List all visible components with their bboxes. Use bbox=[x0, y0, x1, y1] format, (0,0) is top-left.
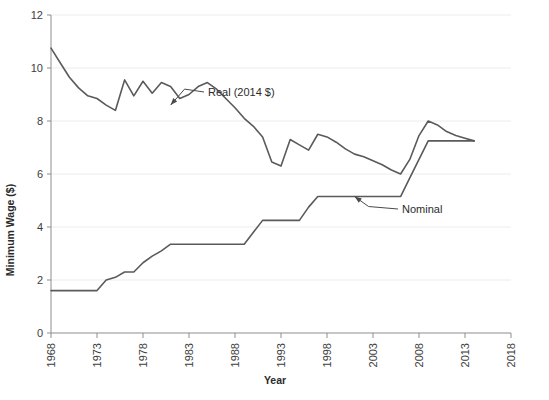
x-tick-label: 2018 bbox=[505, 343, 517, 367]
y-tick-label: 10 bbox=[31, 62, 43, 74]
x-tick-label: 1978 bbox=[137, 343, 149, 367]
annotation-leader bbox=[171, 89, 204, 105]
annotation-label: Real (2014 $) bbox=[208, 86, 275, 98]
x-tick-label: 2013 bbox=[459, 343, 471, 367]
plot-series bbox=[51, 48, 474, 290]
minimum-wage-chart: 024681012 196819731978198319881993199820… bbox=[0, 0, 549, 400]
x-tick-label: 1988 bbox=[229, 343, 241, 367]
x-tick-label: 1993 bbox=[275, 343, 287, 367]
y-tick-label: 12 bbox=[31, 9, 43, 21]
x-tick-label: 1973 bbox=[91, 343, 103, 367]
y-tick-label: 0 bbox=[37, 327, 43, 339]
y-tick-label: 2 bbox=[37, 274, 43, 286]
x-axis-title: Year bbox=[264, 374, 286, 386]
x-tick-label: 1998 bbox=[321, 343, 333, 367]
series-line-real bbox=[51, 48, 474, 174]
x-tick-label: 2008 bbox=[413, 343, 425, 367]
x-tick-label: 2003 bbox=[367, 343, 379, 367]
annotation-arrowhead bbox=[353, 194, 362, 202]
x-axis: 1968197319781983198819931998200320082013… bbox=[45, 333, 517, 367]
chart-canvas: 024681012 196819731978198319881993199820… bbox=[0, 0, 549, 400]
y-tick-label: 8 bbox=[37, 115, 43, 127]
grid-lines bbox=[51, 15, 511, 280]
y-tick-label: 4 bbox=[37, 221, 43, 233]
series-line-nominal bbox=[51, 141, 474, 291]
y-axis: 024681012 bbox=[31, 9, 51, 339]
y-axis-title: Minimum Wage ($) bbox=[4, 184, 16, 276]
x-tick-label: 1983 bbox=[183, 343, 195, 367]
x-tick-label: 1968 bbox=[45, 343, 57, 367]
y-tick-label: 6 bbox=[37, 168, 43, 180]
annotation-label: Nominal bbox=[402, 203, 442, 215]
figure-caption bbox=[0, 392, 549, 400]
